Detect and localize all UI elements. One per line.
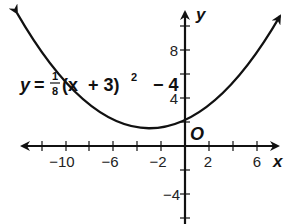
svg-text:y: y [19,75,31,95]
x-tick-label: −2 [149,153,166,170]
parabola-graph: −10 −6 −2 2 6 8 4 −4 y x O y = 1 8 (x + … [0,0,295,224]
y-axis-label: y [195,5,207,24]
x-tick-label: −10 [49,153,74,170]
x-tick-label: 2 [204,153,212,170]
svg-text:(x + 3): (x + 3) [62,75,120,95]
svg-text:8: 8 [52,85,58,97]
svg-text:=: = [34,75,45,95]
x-axis-label: x [272,152,284,171]
equation-label: y = 1 8 (x + 3) 2 − 4 [19,70,179,97]
x-tick-label: 6 [253,153,261,170]
origin-label: O [190,124,204,144]
x-tick-label: −6 [101,153,118,170]
svg-text:− 4: − 4 [153,75,179,95]
svg-text:2: 2 [131,71,137,83]
y-tick-label: 8 [170,42,178,59]
y-tick-label: −4 [163,186,180,203]
svg-text:1: 1 [52,70,58,82]
